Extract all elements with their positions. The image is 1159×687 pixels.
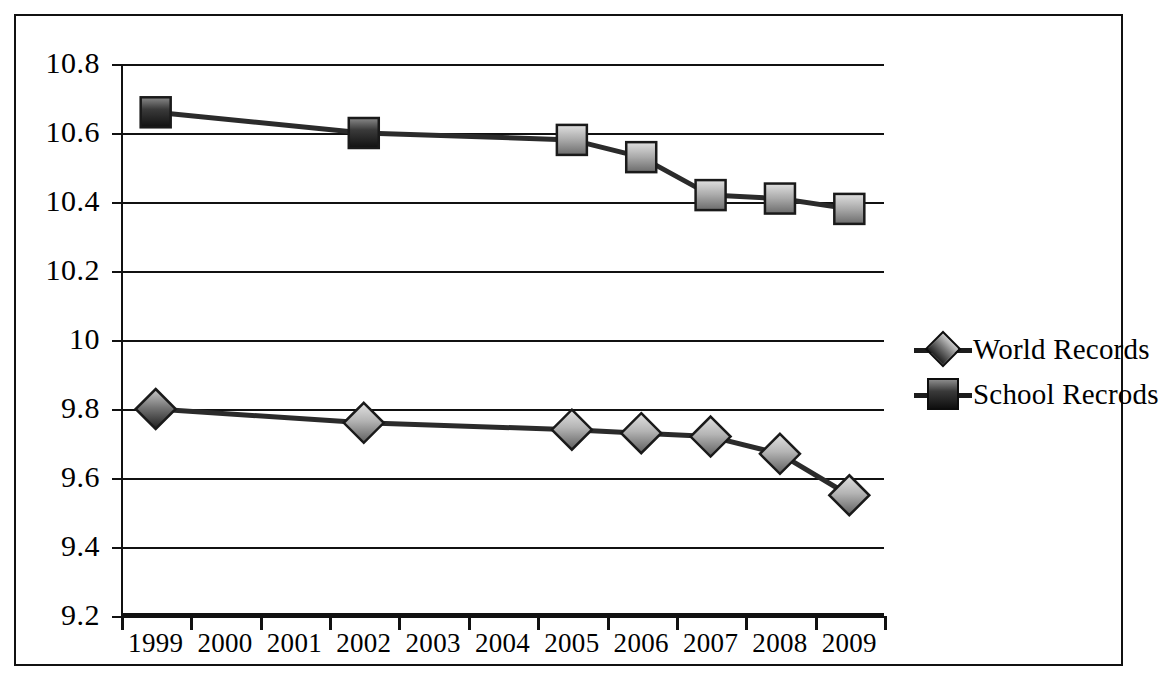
gridline [121, 616, 884, 618]
x-axis-label: 2009 [775, 630, 924, 657]
square-marker-icon [927, 378, 959, 410]
chart-legend: World RecordsSchool Recrods [914, 326, 1146, 416]
y-axis-label: 10.6 [16, 117, 100, 147]
gridline [121, 547, 884, 549]
x-axis-tick [607, 616, 610, 630]
series-line-2 [156, 112, 850, 209]
y-axis-label: 10.2 [16, 255, 100, 285]
legend-key [914, 332, 972, 366]
x-axis-tick [329, 616, 332, 630]
y-axis-tick [112, 64, 121, 66]
data-point-marker [834, 194, 864, 224]
y-axis-label: 9.8 [16, 393, 100, 423]
chart-frame: 9.29.49.69.81010.210.410.610.8 199920002… [14, 14, 1123, 666]
x-axis-tick [815, 616, 818, 630]
legend-label: School Recrods [973, 379, 1159, 409]
data-point-marker [829, 475, 869, 515]
data-point-marker [141, 97, 171, 127]
legend-key [914, 377, 972, 411]
x-axis-tick [260, 616, 263, 630]
gridline [121, 478, 884, 480]
y-axis-tick [112, 409, 121, 411]
x-axis-tick [884, 616, 887, 630]
y-axis-label: 10 [16, 324, 100, 354]
y-axis-tick [112, 547, 121, 549]
y-axis-tick [112, 340, 121, 342]
gridline [121, 202, 884, 204]
x-axis-tick [398, 616, 401, 630]
data-point-marker [760, 434, 800, 474]
gridline [121, 271, 884, 273]
series-line-1 [156, 409, 850, 495]
y-axis-label: 10.8 [16, 48, 100, 78]
x-axis-tick [190, 616, 193, 630]
data-point-marker [552, 410, 592, 450]
gridline [121, 133, 884, 135]
y-axis-tick [112, 616, 121, 618]
data-point-marker [621, 413, 661, 453]
x-axis-tick [676, 616, 679, 630]
gridline [121, 340, 884, 342]
y-axis-tick [112, 478, 121, 480]
plot-area [121, 64, 884, 616]
gridline [121, 409, 884, 411]
y-axis-tick [112, 271, 121, 273]
data-point-marker [557, 125, 587, 155]
y-axis-label: 9.2 [16, 600, 100, 630]
data-point-marker [691, 417, 731, 457]
legend-entry-2[interactable]: School Recrods [914, 371, 1146, 416]
y-axis-tick [112, 133, 121, 135]
diamond-marker-icon [925, 330, 962, 367]
y-axis-label: 9.6 [16, 462, 100, 492]
y-axis-tick [112, 202, 121, 204]
x-axis-tick [468, 616, 471, 630]
legend-label: World Records [973, 334, 1150, 364]
legend-entry-1[interactable]: World Records [914, 326, 1146, 371]
x-axis-tick [537, 616, 540, 630]
data-point-marker [626, 142, 656, 172]
y-axis-label: 9.4 [16, 531, 100, 561]
x-axis-tick [745, 616, 748, 630]
y-axis-label: 10.4 [16, 186, 100, 216]
x-axis-tick [121, 616, 124, 630]
data-point-marker [765, 184, 795, 214]
data-point-marker [696, 180, 726, 210]
gridline [121, 64, 884, 66]
